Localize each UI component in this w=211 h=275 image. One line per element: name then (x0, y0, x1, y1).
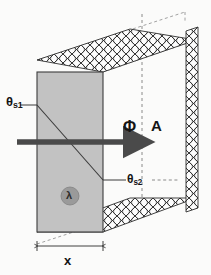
label-surface-temperature-2: θs2 (127, 173, 142, 185)
label-area: A (151, 118, 162, 133)
theta-s2-symbol: θ (127, 172, 134, 186)
wall-diagram-svg (0, 0, 211, 275)
wall-slab (37, 72, 103, 232)
theta-s2-subscript: s2 (134, 178, 143, 187)
label-heat-flow: Φ (123, 119, 136, 135)
theta-s1-symbol: θ (6, 94, 13, 109)
insulation-top-band (37, 29, 196, 72)
label-surface-temperature-1: θs1 (6, 95, 22, 108)
label-thickness: x (64, 254, 71, 267)
insulation-right-band (186, 27, 198, 212)
label-thermal-conductivity: λ (66, 190, 72, 201)
heat-conduction-wall-diagram: θs1 θs2 Φ A λ x (0, 0, 211, 275)
theta-s1-subscript: s1 (13, 100, 22, 110)
